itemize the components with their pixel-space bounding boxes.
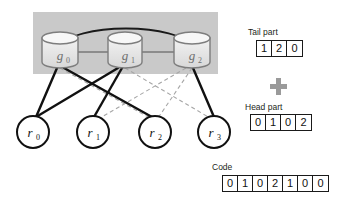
code-cell-1[interactable]: 1 (238, 176, 253, 191)
record-node-r3-subscript: 3 (217, 133, 221, 142)
tail-part-label: Tail part (248, 27, 278, 37)
code-cell-5[interactable]: 0 (298, 176, 313, 191)
cylinder-top (174, 32, 210, 44)
group-node-g1-label: g (122, 48, 129, 63)
cylinder-top (108, 32, 142, 44)
record-node-r0[interactable]: r 0 (17, 116, 49, 148)
record-node-r2-subscript: 2 (158, 133, 162, 142)
edge-g2-r1-dashed (100, 68, 186, 118)
code-cell-6[interactable]: 0 (313, 176, 328, 191)
code-cell-3[interactable]: 2 (268, 176, 283, 191)
edge-g2-r3-solid (193, 68, 214, 117)
edge-g2-r2-dashed (158, 68, 192, 118)
record-node-circle (198, 116, 230, 148)
code-label: Code (212, 162, 232, 172)
code-cell-2[interactable]: 0 (253, 176, 268, 191)
record-node-r2[interactable]: r 2 (139, 116, 171, 148)
tail-part-array[interactable]: 1 2 0 (256, 40, 303, 57)
graph-svg: g 0 g 1 g 2 r 0 r 1 r 2 (0, 0, 343, 202)
code-array[interactable]: 0 1 0 2 1 0 0 (222, 175, 329, 192)
group-node-g1-subscript: 1 (131, 56, 135, 65)
head-cell-0[interactable]: 0 (251, 115, 266, 130)
group-node-g2-label: g (189, 48, 196, 63)
record-node-circle (139, 116, 171, 148)
record-node-r1[interactable]: r 1 (77, 116, 109, 148)
record-node-circle (17, 116, 49, 148)
cylinder-top (42, 32, 78, 44)
tail-cell-1[interactable]: 2 (272, 41, 287, 56)
head-part-array[interactable]: 0 1 0 2 (250, 114, 312, 131)
record-node-r1-subscript: 1 (96, 133, 100, 142)
diagram-canvas: g 0 g 1 g 2 r 0 r 1 r 2 (0, 0, 343, 202)
head-cell-3[interactable]: 2 (296, 115, 311, 130)
record-node-r0-subscript: 0 (36, 133, 40, 142)
tail-cell-2[interactable]: 0 (287, 41, 302, 56)
group-node-g2-subscript: 2 (198, 56, 202, 65)
plus-icon (270, 78, 287, 95)
head-cell-2[interactable]: 0 (281, 115, 296, 130)
record-node-r3[interactable]: r 3 (198, 116, 230, 148)
code-cell-0[interactable]: 0 (223, 176, 238, 191)
head-part-label: Head part (245, 102, 282, 112)
group-node-g0-label: g (57, 48, 64, 63)
group-node-g0[interactable]: g 0 (42, 32, 78, 68)
group-node-g1[interactable]: g 1 (108, 32, 142, 68)
tail-cell-0[interactable]: 1 (257, 41, 272, 56)
record-node-circle (77, 116, 109, 148)
group-node-g0-subscript: 0 (66, 56, 70, 65)
code-cell-4[interactable]: 1 (283, 176, 298, 191)
group-node-g2[interactable]: g 2 (174, 32, 210, 68)
head-cell-1[interactable]: 1 (266, 115, 281, 130)
